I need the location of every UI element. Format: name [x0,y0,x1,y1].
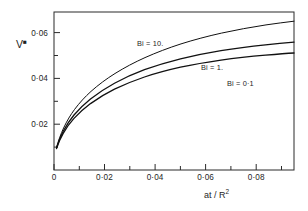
y-tick-label-0-02: 0·02 [6,120,48,129]
y-axis-title-text: V [16,38,23,50]
curve-bi-10 [57,21,295,147]
y-axis-minor-ticks [54,56,58,148]
y-tick-label-0-06: 0·06 [6,28,48,37]
plot-frame [54,12,294,170]
y-axis-title-star: ■ [23,38,27,45]
x-tick-label-0-02: 0·02 [96,173,113,182]
x-tick-label-0-04: 0·04 [147,173,164,182]
y-axis-major-ticks [54,33,60,125]
curve-label-bi-10: Bi = 10. [137,39,163,48]
x-tick-label-0: 0 [52,173,57,182]
x-axis-major-ticks [54,164,256,170]
x-axis-minor-ticks [79,166,281,170]
curve-bi-1 [57,42,295,148]
x-axis-title-exponent: 2 [226,188,230,195]
figure-container: 0·02 0·04 0·06 0 0·02 0·04 0·06 0·08 V■ … [0,0,308,211]
curve-label-bi-0-1: Bi = 0·1 [227,79,254,88]
x-axis-title: at / R2 [204,190,229,200]
y-axis-title: V■ [16,38,27,50]
curve-bi-0-1 [57,53,295,149]
x-axis-title-text: at / R [204,190,226,200]
curve-label-bi-1: Bi = 1. [201,63,223,72]
y-tick-label-0-04: 0·04 [6,74,48,83]
x-tick-label-0-06: 0·06 [197,173,214,182]
x-tick-label-0-08: 0·08 [248,173,265,182]
